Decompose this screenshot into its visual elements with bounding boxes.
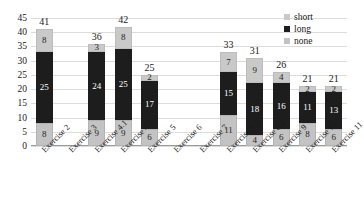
- y-tick-label: 20: [2, 84, 27, 94]
- bar-total-label: 33: [223, 40, 233, 50]
- bar-total-label: 31: [250, 46, 260, 56]
- bar-total-label: 36: [92, 32, 102, 42]
- bar-segment-short[interactable]: 8: [115, 27, 132, 50]
- legend-item: short: [284, 11, 348, 22]
- bar-stack[interactable]: 8258: [36, 29, 53, 146]
- y-tick-label: 0: [2, 141, 27, 151]
- bar-segment-value: 8: [42, 36, 47, 45]
- legend-item: long: [284, 23, 348, 34]
- bar-segment-value: 24: [92, 82, 101, 91]
- bar-total-label: 42: [118, 15, 128, 25]
- y-tick-label: 45: [2, 13, 27, 23]
- legend-swatch-icon: [284, 38, 290, 44]
- legend-label: none: [294, 36, 312, 46]
- bar-segment-value: 9: [253, 66, 258, 75]
- bar-total-label: 21: [329, 74, 339, 84]
- chart-legend: shortlongnone: [284, 11, 348, 47]
- bar-segment-short[interactable]: 2: [299, 86, 316, 92]
- bar-segment-short[interactable]: 2: [325, 86, 342, 92]
- bar-segment-value: 25: [40, 83, 49, 92]
- bar-segment-long[interactable]: 24: [88, 52, 105, 120]
- y-tick-label: 30: [2, 56, 27, 66]
- bar-segment-long[interactable]: 11: [299, 92, 316, 123]
- bar-total-label: 21: [302, 74, 312, 84]
- legend-swatch-icon: [284, 14, 290, 20]
- x-axis-tick-labels: Exercise 2Exercise 3Exercise 4.1Exercise…: [31, 148, 347, 209]
- y-tick-label: 5: [2, 127, 27, 137]
- y-tick-label: 35: [2, 41, 27, 51]
- bar-segment-long[interactable]: 25: [36, 52, 53, 123]
- bar-total-label: 26: [276, 60, 286, 70]
- bar-segment-value: 25: [119, 80, 128, 89]
- bar-segment-value: 18: [250, 105, 259, 114]
- bar-group: 418258: [31, 18, 57, 146]
- bar-segment-value: 13: [329, 106, 338, 115]
- bar-segment-short[interactable]: 4: [273, 72, 290, 83]
- bar-segment-value: 11: [303, 103, 312, 112]
- bar-segment-value: 17: [145, 100, 154, 109]
- y-tick-label: 10: [2, 113, 27, 123]
- y-tick-label: 40: [2, 27, 27, 37]
- bar-segment-short[interactable]: 7: [220, 52, 237, 72]
- bar-segment-long[interactable]: 15: [220, 72, 237, 115]
- bar-segment-value: 4: [279, 73, 284, 82]
- y-tick-label: 15: [2, 98, 27, 108]
- legend-label: short: [294, 12, 313, 22]
- y-tick-label: 25: [2, 70, 27, 80]
- bar-total-label: 25: [144, 63, 154, 73]
- bar-segment-value: 15: [224, 89, 233, 98]
- bar-segment-value: 7: [226, 58, 231, 67]
- bar-segment-long[interactable]: 25: [115, 49, 132, 120]
- bar-segment-short[interactable]: 9: [246, 58, 263, 84]
- bar-segment-value: 8: [42, 130, 47, 139]
- bar-segment-value: 8: [121, 33, 126, 42]
- bar-segment-short[interactable]: 3: [88, 44, 105, 53]
- legend-label: long: [294, 24, 311, 34]
- bar-total-label: 41: [39, 17, 49, 27]
- bar-segment-value: 16: [277, 102, 286, 111]
- bar-segment-short[interactable]: 8: [36, 29, 53, 52]
- legend-item: none: [284, 35, 348, 46]
- bar-segment-value: 3: [95, 43, 100, 52]
- bar-segment-short[interactable]: 2: [141, 75, 158, 81]
- legend-swatch-icon: [284, 26, 290, 32]
